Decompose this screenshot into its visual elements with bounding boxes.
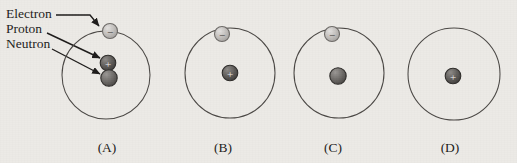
- legend-label-neutron: Neutron: [6, 36, 50, 51]
- neutron-leader: [52, 49, 100, 74]
- electron-charge-sign: −: [107, 26, 113, 38]
- panels-group: −+−+−+: [62, 24, 500, 121]
- electron-charge-sign: −: [219, 29, 225, 41]
- panel-labels-group: (A)(B)(C)(D): [98, 140, 460, 155]
- electron-leader: [56, 15, 99, 26]
- proton-charge-sign: +: [227, 68, 233, 80]
- figure-canvas: Electron Proton Neutron −+−+−+ (A)(B)(C)…: [0, 0, 517, 163]
- proton-charge-sign: +: [450, 71, 456, 83]
- electron-charge-sign: −: [329, 29, 335, 41]
- neutron-particle: [330, 68, 346, 84]
- panel-label-a: (A): [98, 140, 117, 155]
- atom-panel-a: −+: [62, 24, 150, 120]
- legend-group: Electron Proton Neutron: [6, 6, 52, 51]
- legend-label-electron: Electron: [6, 6, 52, 21]
- panel-label-d: (D): [441, 140, 460, 155]
- atom-diagram-figure: Electron Proton Neutron −+−+−+ (A)(B)(C)…: [0, 0, 517, 163]
- neutron-particle: [101, 70, 117, 86]
- panel-label-c: (C): [324, 140, 342, 155]
- leader-lines-group: [47, 15, 100, 74]
- panel-label-b: (B): [214, 140, 232, 155]
- legend-label-proton: Proton: [6, 21, 42, 36]
- atom-panel-d: +: [408, 28, 500, 120]
- proton-charge-sign: +: [105, 58, 111, 70]
- atom-panel-c: −: [294, 27, 384, 119]
- atom-panel-b: −+: [185, 27, 275, 119]
